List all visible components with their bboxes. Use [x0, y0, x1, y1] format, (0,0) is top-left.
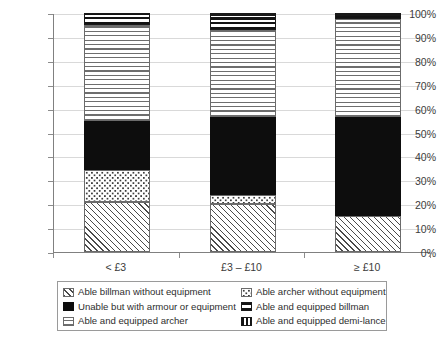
y-axis-tick [48, 14, 53, 15]
x-axis: < £3£3 – £10≥ £10 [53, 255, 430, 277]
y-axis-tick-label: 100% [409, 9, 436, 19]
y-axis-tick-label: 90% [415, 33, 436, 43]
x-axis-tick-label: £3 – £10 [179, 255, 305, 277]
bar-segment [210, 15, 276, 29]
bar-segment [210, 204, 276, 252]
bar-segment [210, 117, 276, 195]
bar-segment [210, 30, 276, 117]
legend-item[interactable]: Able archer without equipment [241, 287, 393, 297]
bar-segment [84, 121, 150, 170]
y-axis-tick [48, 38, 53, 39]
legend-item[interactable]: Able billman without equipment [63, 287, 241, 297]
bar-segment [335, 19, 401, 117]
plot-area [53, 14, 430, 253]
dotted-swatch [241, 288, 252, 297]
bar-segment [84, 13, 150, 25]
y-axis-tick [48, 205, 53, 206]
x-axis-tick-label: ≥ £10 [304, 255, 430, 277]
diagonal-hatch-swatch [63, 288, 74, 297]
x-axis-tick-label: < £3 [53, 255, 179, 277]
bar-segment [210, 195, 276, 205]
y-axis-tick [48, 181, 53, 182]
y-axis-tick [48, 157, 53, 158]
legend-item[interactable]: Unable but with armour or equipment [63, 302, 241, 312]
legend-item[interactable]: Able and equipped archer [63, 316, 241, 326]
x-axis-tick [304, 253, 305, 258]
legend-label: Able and equipped demi-lance [256, 316, 386, 326]
bar-segment [335, 15, 401, 19]
legend-grid: Able billman without equipmentAble arche… [63, 285, 381, 329]
vertical-bars-swatch [241, 317, 252, 326]
bar-segment [84, 170, 150, 202]
y-axis-tick-label: 80% [415, 57, 436, 67]
legend-item[interactable]: Able and equipped demi-lance [241, 316, 393, 326]
y-axis-tick [48, 62, 53, 63]
y-axis-tick-label: 60% [415, 105, 436, 115]
bar-segment [335, 216, 401, 252]
y-axis [0, 0, 48, 253]
bar-segment [84, 202, 150, 252]
legend-item[interactable]: Able and equipped billman [241, 302, 393, 312]
y-axis-tick-label: 70% [415, 81, 436, 91]
bar-1 [84, 13, 150, 252]
y-axis-tick [48, 86, 53, 87]
legend-label: Able and equipped billman [256, 302, 369, 312]
y-axis-tick-label: 40% [415, 152, 436, 162]
bar-segment [335, 117, 401, 216]
x-axis-tick [179, 253, 180, 258]
legend-label: Able archer without equipment [256, 287, 386, 297]
y-axis-tick-label: 0% [421, 248, 436, 258]
bar-2 [210, 13, 276, 252]
x-axis-tick [430, 253, 431, 258]
y-axis-tick [48, 229, 53, 230]
bar-3 [335, 13, 401, 252]
legend-label: Unable but with armour or equipment [78, 302, 236, 312]
legend-label: Able billman without equipment [78, 287, 211, 297]
heavy-horizontal-swatch [241, 302, 252, 311]
stacked-bar-chart: < £3£3 – £10≥ £10 Able billman without e… [0, 0, 442, 340]
bar-segment [84, 25, 150, 121]
y-axis-tick [48, 110, 53, 111]
y-axis-tick [48, 134, 53, 135]
bar-segment [210, 13, 276, 15]
light-horizontal-swatch [63, 317, 74, 326]
bar-segment [335, 13, 401, 15]
y-axis-tick-label: 30% [415, 176, 436, 186]
chart-legend: Able billman without equipmentAble arche… [57, 281, 387, 331]
y-axis-tick-label: 20% [415, 200, 436, 210]
y-axis-tick-label: 50% [415, 129, 436, 139]
x-axis-tick [53, 253, 54, 258]
legend-label: Able and equipped archer [78, 316, 188, 326]
y-axis-tick-label: 10% [415, 224, 436, 234]
solid-black-swatch [63, 302, 74, 311]
